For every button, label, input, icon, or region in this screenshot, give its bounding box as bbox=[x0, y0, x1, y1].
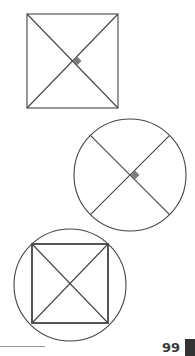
circle-with-diameters-figure bbox=[74, 119, 186, 231]
circle-outline bbox=[14, 229, 126, 341]
right-angle-marker-icon bbox=[131, 171, 140, 180]
square-with-diagonals-figure bbox=[27, 14, 118, 108]
geometry-figures bbox=[0, 0, 195, 356]
right-angle-marker-icon bbox=[73, 57, 82, 66]
footer-rule bbox=[0, 346, 45, 347]
page-edge-tab bbox=[185, 339, 195, 356]
inscribed-square-figure bbox=[14, 229, 126, 341]
page-number: 99 bbox=[162, 340, 180, 355]
